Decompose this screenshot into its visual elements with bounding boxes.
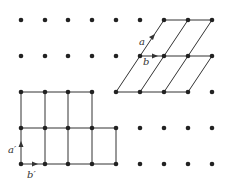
lattice-point xyxy=(186,126,191,131)
lattice-point xyxy=(138,162,143,167)
lattice-point xyxy=(19,162,24,167)
oblique-cell-edge xyxy=(188,56,212,92)
lattice-point xyxy=(43,126,48,131)
lattice-point xyxy=(114,90,119,95)
lattice-diagram: a b a′ b′ xyxy=(0,0,232,184)
lattice-point xyxy=(162,162,167,167)
lattice-point xyxy=(210,126,215,131)
lattice-point xyxy=(186,162,191,167)
lattice-point xyxy=(66,162,71,167)
lattice-point xyxy=(90,54,95,59)
lattice-point xyxy=(138,126,143,131)
lattice-point xyxy=(138,18,143,23)
lattice-point xyxy=(90,18,95,23)
lattice-point xyxy=(90,90,95,95)
label-a: a xyxy=(139,36,145,47)
lattice-point xyxy=(138,54,143,59)
lattice-point xyxy=(162,54,167,59)
lattice-point xyxy=(19,54,24,59)
lattice-point xyxy=(162,18,167,23)
lattice-point xyxy=(19,126,24,131)
arrow-b-prime-icon xyxy=(32,162,38,167)
lattice-point xyxy=(210,90,215,95)
arrow-b-icon xyxy=(152,54,158,59)
label-b-prime: b′ xyxy=(27,169,36,180)
lattice-point xyxy=(66,18,71,23)
arrow-a-prime-icon xyxy=(19,141,24,147)
lattice-point xyxy=(114,18,119,23)
lattice-point xyxy=(114,54,119,59)
lattice-point xyxy=(114,162,119,167)
lattice-point xyxy=(66,54,71,59)
lattice-point xyxy=(90,162,95,167)
lattice-point xyxy=(66,90,71,95)
lattice-point xyxy=(138,90,143,95)
lattice-point xyxy=(66,126,71,131)
lattice-point xyxy=(114,126,119,131)
vector-arrows xyxy=(19,34,159,167)
lattice-point xyxy=(210,18,215,23)
arrow-a-icon xyxy=(149,34,155,40)
lattice-point xyxy=(43,90,48,95)
lattice-point xyxy=(210,162,215,167)
lattice-point xyxy=(43,54,48,59)
lattice-point xyxy=(43,162,48,167)
lattice-point xyxy=(186,18,191,23)
lattice-point xyxy=(19,18,24,23)
lattice-point xyxy=(162,90,167,95)
lattice-point xyxy=(210,54,215,59)
lattice-point xyxy=(162,126,167,131)
lattice-point xyxy=(43,18,48,23)
label-b: b xyxy=(143,56,149,67)
lattice-point xyxy=(186,54,191,59)
lattice-point xyxy=(90,126,95,131)
label-a-prime: a′ xyxy=(8,144,17,155)
lattice-point xyxy=(19,90,24,95)
lattice-point xyxy=(186,90,191,95)
